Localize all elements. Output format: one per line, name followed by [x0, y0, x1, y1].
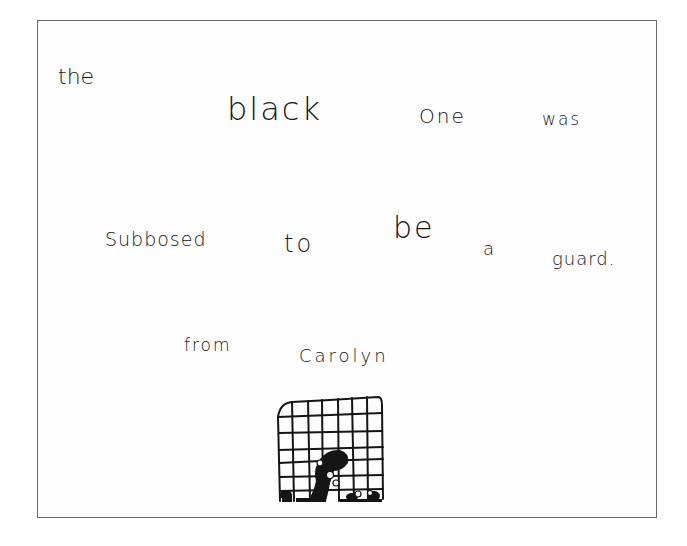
word-black: black: [227, 93, 322, 125]
word-supposed: Subbosed: [105, 230, 207, 249]
caged-guard-drawing-icon: [270, 395, 392, 505]
word-guard: guard.: [552, 250, 615, 268]
word-one: One: [419, 106, 466, 126]
word-a: a: [483, 240, 495, 258]
word-was: was: [542, 111, 581, 128]
word-carolyn: Carolyn: [299, 347, 389, 365]
word-the: the: [58, 66, 94, 88]
word-to: to: [284, 232, 314, 256]
word-be: be: [393, 213, 435, 243]
word-from: from: [184, 337, 232, 354]
